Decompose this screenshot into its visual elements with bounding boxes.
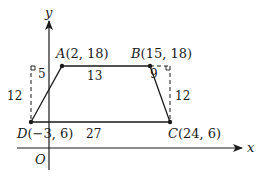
origin-label: O xyxy=(35,152,46,167)
point-b-letter: B xyxy=(130,46,141,61)
point-c-label: C(24, 6) xyxy=(168,126,221,141)
point-a-letter: A xyxy=(55,46,65,61)
point-d-letter: D xyxy=(16,126,28,141)
measure-top-base: 13 xyxy=(87,69,102,83)
right-angle-marker-left xyxy=(31,66,35,70)
point-a xyxy=(60,64,64,68)
point-c xyxy=(168,120,172,124)
coordinate-diagram: y x O A(2, 18) B(15, 18) C(24, 6) D(−3, … xyxy=(0,0,259,179)
point-a-label: A(2, 18) xyxy=(55,46,109,61)
measure-right-height: 12 xyxy=(175,89,190,103)
point-c-letter: C xyxy=(168,126,178,141)
point-b-label: B(15, 18) xyxy=(130,46,192,61)
point-d xyxy=(29,120,33,124)
point-c-coords: (24, 6) xyxy=(178,126,221,141)
point-d-coords: (−3, 6) xyxy=(27,126,73,141)
measure-top-right-offset: 9 xyxy=(150,67,158,81)
x-axis-label: x xyxy=(247,140,255,155)
measure-top-left-offset: 5 xyxy=(38,67,46,81)
measure-left-height: 12 xyxy=(7,89,22,103)
measure-bottom-base: 27 xyxy=(86,127,101,141)
point-d-label: D(−3, 6) xyxy=(16,126,73,141)
point-b-coords: (15, 18) xyxy=(141,46,193,61)
y-axis-label: y xyxy=(44,5,53,20)
right-angle-marker-right xyxy=(166,66,170,70)
point-a-coords: (2, 18) xyxy=(65,46,108,61)
